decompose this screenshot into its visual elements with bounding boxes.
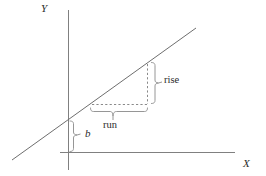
b-brace — [70, 121, 77, 152]
b-brace-tick — [77, 134, 81, 135]
run-brace — [91, 108, 148, 116]
rise-brace — [152, 63, 159, 104]
intercept-label: b — [85, 128, 91, 139]
slope-diagram: Y X rise run b — [0, 0, 266, 176]
run-label: run — [103, 120, 117, 131]
diagram-canvas — [0, 0, 266, 176]
x-axis-label: X — [243, 158, 250, 169]
sloped-line — [12, 28, 196, 160]
rise-brace-tick — [159, 82, 163, 83]
y-axis-label: Y — [41, 3, 47, 14]
rise-label: rise — [164, 75, 179, 86]
